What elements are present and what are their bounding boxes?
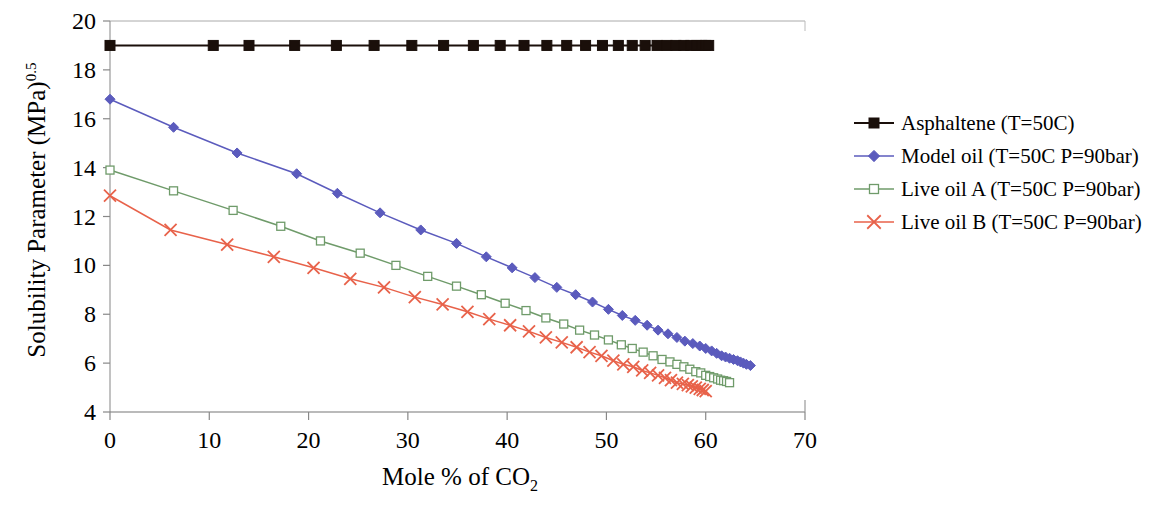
data-point-marker — [409, 291, 421, 303]
x-axis-tick-label: 20 — [297, 427, 321, 453]
data-point-marker — [392, 261, 400, 269]
legend-item-1[interactable]: Model oil (T=50C P=90bar) — [852, 141, 1149, 171]
data-point-marker — [869, 118, 879, 128]
data-point-marker — [658, 355, 666, 363]
data-point-marker — [552, 282, 562, 292]
data-point-marker — [437, 298, 449, 310]
data-point-marker — [507, 263, 517, 273]
data-point-marker — [369, 40, 379, 50]
plot-area: 468101214161820010203040506070 — [0, 0, 1149, 508]
data-point-marker — [344, 273, 356, 285]
data-point-marker — [290, 40, 300, 50]
data-point-marker — [477, 291, 485, 299]
y-axis-tick-label: 4 — [84, 399, 96, 425]
x-axis-tick-label: 50 — [594, 427, 618, 453]
data-point-marker — [416, 225, 426, 235]
chart-container: 468101214161820010203040506070 Solubilit… — [0, 0, 1149, 508]
data-point-marker — [495, 40, 505, 50]
legend-item-label: Asphaltene (T=50C) — [901, 113, 1074, 134]
x-axis-tick-label: 10 — [197, 427, 221, 453]
series-1 — [105, 94, 755, 370]
y-axis-tick-label: 8 — [84, 301, 96, 327]
data-point-marker — [640, 40, 650, 50]
data-point-marker — [208, 40, 218, 50]
data-point-marker — [581, 40, 591, 50]
data-point-marker — [356, 249, 364, 257]
y-axis-tick-label: 6 — [84, 350, 96, 376]
data-point-marker — [461, 306, 473, 318]
y-axis-title-text: Solubility Parameter (MPa) — [23, 81, 50, 357]
x-axis-tick-label: 70 — [793, 427, 817, 453]
data-point-marker — [519, 40, 529, 50]
data-point-marker — [105, 94, 115, 104]
data-point-marker — [453, 282, 461, 290]
data-point-marker — [704, 40, 714, 50]
data-point-marker — [165, 224, 177, 236]
data-point-marker — [571, 290, 581, 300]
data-point-marker — [542, 314, 550, 322]
data-point-marker — [628, 344, 636, 352]
y-axis-tick-label: 10 — [72, 252, 96, 278]
data-point-marker — [542, 40, 552, 50]
data-point-marker — [652, 40, 662, 50]
legend-marker-icon — [852, 177, 896, 201]
data-point-marker — [540, 331, 552, 343]
data-point-marker — [595, 350, 607, 362]
data-point-marker — [642, 320, 652, 330]
data-point-marker — [530, 273, 540, 283]
legend-item-3[interactable]: Live oil B (T=50C P=90bar) — [852, 207, 1149, 237]
data-point-marker — [375, 208, 385, 218]
data-point-marker — [562, 40, 572, 50]
data-point-marker — [644, 367, 656, 379]
x-axis-tick-label: 0 — [104, 427, 116, 453]
y-axis-tick-label: 18 — [72, 57, 96, 83]
data-point-marker — [613, 40, 623, 50]
y-axis-title-exponent: 0.5 — [23, 63, 39, 82]
data-point-marker — [607, 355, 619, 367]
data-point-marker — [639, 348, 647, 356]
y-axis-tick-label: 16 — [72, 106, 96, 132]
data-point-marker — [439, 40, 449, 50]
data-point-marker — [232, 148, 242, 158]
data-point-marker — [617, 310, 627, 320]
y-axis-tick-label: 12 — [72, 204, 96, 230]
x-axis-title-subscript: 2 — [530, 477, 538, 494]
data-point-marker — [105, 40, 115, 50]
data-point-marker — [468, 40, 478, 50]
data-point-marker — [617, 358, 629, 370]
legend-marker-icon — [852, 111, 896, 135]
data-point-marker — [331, 40, 341, 50]
data-series — [104, 40, 755, 397]
x-axis-tick-label: 40 — [495, 427, 519, 453]
data-point-marker — [649, 352, 657, 360]
data-point-marker — [597, 40, 607, 50]
legend-item-label: Model oil (T=50C P=90bar) — [901, 146, 1139, 167]
data-point-marker — [106, 166, 114, 174]
data-point-marker — [571, 341, 583, 353]
y-axis-title: Solubility Parameter (MPa)0.5 — [23, 10, 51, 410]
legend-item-0[interactable]: Asphaltene (T=50C) — [852, 108, 1149, 138]
data-point-marker — [504, 319, 516, 331]
data-point-marker — [653, 325, 663, 335]
data-point-marker — [292, 169, 302, 179]
data-point-marker — [424, 272, 432, 280]
data-point-marker — [277, 222, 285, 230]
data-point-marker — [407, 40, 417, 50]
series-3 — [104, 190, 712, 398]
data-point-marker — [244, 40, 254, 50]
y-axis-tick-label: 14 — [72, 155, 96, 181]
data-point-marker — [316, 237, 324, 245]
data-point-marker — [501, 299, 509, 307]
data-point-marker — [870, 185, 879, 194]
data-point-marker — [308, 262, 320, 274]
legend-marker-icon — [852, 210, 896, 234]
x-axis-tick-label: 30 — [396, 427, 420, 453]
legend-item-2[interactable]: Live oil A (T=50C P=90bar) — [852, 174, 1149, 204]
data-point-marker — [452, 238, 462, 248]
data-point-marker — [229, 206, 237, 214]
data-point-marker — [617, 341, 625, 349]
data-point-marker — [483, 313, 495, 325]
data-point-marker — [868, 150, 879, 161]
data-point-marker — [221, 239, 233, 251]
data-point-marker — [726, 379, 734, 387]
